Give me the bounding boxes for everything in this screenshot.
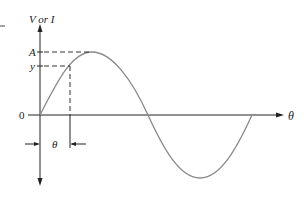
value-label: y xyxy=(30,61,35,72)
y-axis-down-arrow-icon xyxy=(38,178,43,186)
theta-left-arrow-icon xyxy=(34,142,40,146)
sine-wave-diagram: V or I θ 0 A y θ xyxy=(0,0,308,200)
amplitude-label: A xyxy=(29,47,36,58)
diagram-canvas xyxy=(0,0,308,200)
origin-label: 0 xyxy=(19,110,25,121)
y-axis-up-arrow-icon xyxy=(38,24,43,32)
y-axis-label: V or I xyxy=(29,14,54,25)
theta-right-arrow-icon xyxy=(70,142,76,146)
angle-label: θ xyxy=(52,139,57,150)
x-axis-arrow-icon xyxy=(276,113,284,118)
x-axis-label: θ xyxy=(288,110,294,122)
